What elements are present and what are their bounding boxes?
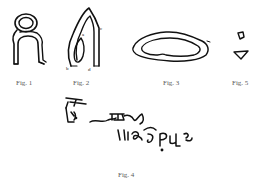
figure-4-caption: Fig. 4 — [118, 171, 134, 179]
figure-1-caption: Fig. 1 — [16, 79, 32, 87]
figure-2-drawing: c a b d — [63, 4, 107, 74]
figure-3-drawing — [130, 28, 214, 64]
figure-5-drawing — [232, 30, 254, 64]
figure-4-inscription — [62, 96, 212, 158]
figure-2-mark-b: b — [66, 66, 69, 71]
figure-2-caption: Fig. 2 — [73, 79, 89, 87]
figure-1-drawing — [8, 12, 48, 68]
figure-3-caption: Fig. 3 — [163, 79, 179, 87]
figure-5-caption: Fig. 5 — [232, 79, 248, 87]
figure-2-mark-d: d — [88, 67, 91, 72]
figure-2-mark-a: a — [82, 32, 85, 37]
figure-2-mark-c: c — [100, 26, 103, 31]
figure-plate: Fig. 1 c a b d Fig. 2 Fig. 3 — [0, 0, 262, 186]
